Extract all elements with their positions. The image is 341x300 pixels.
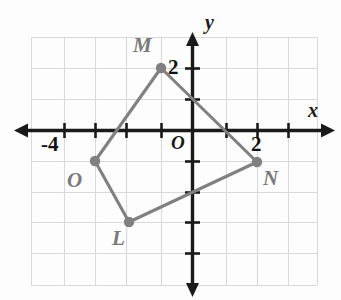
vertex-point-n [252,157,262,167]
x-tick-label-2: 2 [251,134,262,155]
vertex-point-o [90,156,100,166]
y-tick-label-2: 2 [168,57,179,78]
vertex-point-l [124,217,134,227]
vertex-label-o: O [67,170,82,191]
vertex-label-m: M [133,35,152,56]
x-axis-right-arrowhead [321,124,335,138]
x-axis-left-arrowhead [14,124,28,138]
coordinate-plane-figure: x y O -4 2 2 M N O L [0,0,341,300]
vertex-label-n: N [263,168,278,189]
y-axis-top-arrowhead [186,32,199,46]
x-tick-label-neg4: -4 [41,134,59,155]
y-axis [186,32,199,297]
vertex-point-m [156,63,166,73]
y-axis-bottom-arrowhead [186,283,199,297]
y-axis-label: y [205,12,214,32]
vertex-label-l: L [112,228,125,249]
origin-label: O [171,133,185,152]
x-axis-label: x [308,100,318,120]
